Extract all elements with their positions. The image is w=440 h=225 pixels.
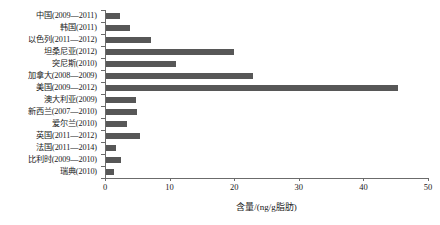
- x-tick-label: 40: [359, 182, 368, 192]
- y-tick: [101, 82, 105, 83]
- y-tick: [101, 142, 105, 143]
- x-tick: [234, 178, 235, 181]
- x-tick-label: 20: [230, 182, 239, 192]
- x-tick-label: 10: [165, 182, 174, 192]
- bar-row: [106, 10, 429, 22]
- bar-row: [106, 130, 429, 142]
- bar-row: [106, 142, 429, 154]
- bar-row: [106, 46, 429, 58]
- category-label: 以色列(2011—2012): [0, 34, 101, 46]
- y-tick: [101, 34, 105, 35]
- y-tick: [101, 58, 105, 59]
- y-tick: [101, 94, 105, 95]
- bar-row: [106, 22, 429, 34]
- x-tick: [105, 178, 106, 181]
- category-label: 比利时(2009—2010): [0, 154, 101, 166]
- bar: [106, 145, 116, 151]
- x-tick-label: 30: [295, 182, 304, 192]
- x-axis-title: 含量/(ng/g脂肪): [105, 200, 428, 213]
- bar: [106, 121, 127, 127]
- bar-row: [106, 94, 429, 106]
- y-tick: [101, 154, 105, 155]
- category-label: 法国(2011—2014): [0, 142, 101, 154]
- horizontal-bar-chart: 中国(2009—2011) 韩国(2011) 以色列(2011—2012) 坦桑…: [0, 0, 440, 225]
- x-tick-label: 50: [424, 182, 433, 192]
- bar: [106, 169, 114, 175]
- bar: [106, 97, 136, 103]
- category-label: 坦桑尼亚(2012): [0, 46, 101, 58]
- category-label: 英国(2011—2012): [0, 130, 101, 142]
- y-tick: [101, 10, 105, 11]
- category-label: 中国(2009—2011): [0, 10, 101, 22]
- y-tick: [101, 118, 105, 119]
- category-label: 澳大利亚(2009): [0, 94, 101, 106]
- category-label: 爱尔兰(2010): [0, 118, 101, 130]
- y-tick: [101, 70, 105, 71]
- x-tick: [299, 178, 300, 181]
- x-tick: [363, 178, 364, 181]
- category-label: 新西兰(2007—2010): [0, 106, 101, 118]
- bar: [106, 37, 151, 43]
- plot-area: [105, 10, 429, 178]
- bar: [106, 61, 176, 67]
- bar: [106, 133, 140, 139]
- category-label: 美国(2009—2012): [0, 82, 101, 94]
- bar: [106, 49, 234, 55]
- bar-row: [106, 154, 429, 166]
- x-tick: [170, 178, 171, 181]
- bar-row: [106, 106, 429, 118]
- category-label: 突尼斯(2010): [0, 58, 101, 70]
- y-tick: [101, 22, 105, 23]
- y-tick: [101, 178, 105, 179]
- bar: [106, 25, 130, 31]
- bar-row: [106, 70, 429, 82]
- bar-row: [106, 166, 429, 178]
- y-tick: [101, 46, 105, 47]
- category-label: 韩国(2011): [0, 22, 101, 34]
- category-label: 瑞典(2010): [0, 166, 101, 178]
- bar: [106, 13, 120, 19]
- bar: [106, 157, 121, 163]
- bar-row: [106, 58, 429, 70]
- category-label: 加拿大(2008—2009): [0, 70, 101, 82]
- bar-row: [106, 34, 429, 46]
- bar: [106, 85, 398, 91]
- x-axis-line: [105, 178, 428, 179]
- category-axis-labels: 中国(2009—2011) 韩国(2011) 以色列(2011—2012) 坦桑…: [0, 10, 101, 178]
- bar: [106, 109, 137, 115]
- bars-layer: [106, 10, 429, 178]
- y-tick: [101, 130, 105, 131]
- bar: [106, 73, 253, 79]
- bar-row: [106, 118, 429, 130]
- bar-row: [106, 82, 429, 94]
- y-tick: [101, 166, 105, 167]
- y-tick: [101, 106, 105, 107]
- x-tick: [428, 178, 429, 181]
- x-tick-label: 0: [103, 182, 107, 192]
